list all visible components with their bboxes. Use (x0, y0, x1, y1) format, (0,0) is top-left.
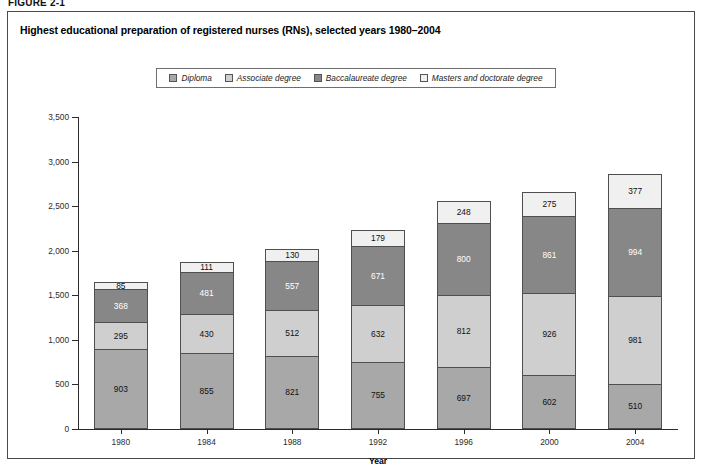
x-axis-tick-label: 1996 (421, 437, 507, 447)
x-axis-tick (121, 430, 122, 434)
bar-segment-value: 994 (628, 248, 642, 256)
bar-segment[interactable]: 275 (522, 192, 576, 217)
bar-segment[interactable]: 481 (180, 272, 234, 315)
bar-segment[interactable]: 861 (522, 216, 576, 293)
x-axis-tick-label: 2000 (507, 437, 593, 447)
bar-segment-value: 926 (542, 330, 556, 338)
bar-segment[interactable]: 557 (265, 261, 319, 311)
y-axis-tick-label: 3,500 (48, 112, 69, 122)
bar-segment[interactable]: 248 (437, 201, 491, 223)
legend-item-label: Masters and doctorate degree (432, 74, 543, 82)
x-axis-tick (378, 430, 379, 434)
y-axis-tick: 3,000 (72, 162, 78, 163)
bar-segment-value: 602 (542, 398, 556, 406)
bar-segment[interactable]: 602 (522, 375, 576, 429)
bar-segment[interactable]: 800 (437, 223, 491, 294)
x-axis-tick (635, 430, 636, 434)
legend-swatch-baccalaureate (314, 74, 322, 82)
x-axis-tick-label: 2004 (592, 437, 678, 447)
bar-group[interactable]: 275861926602 (522, 192, 576, 429)
bar-segment[interactable]: 855 (180, 353, 234, 429)
bar-segment-value: 481 (200, 289, 214, 297)
bar-segment-value: 368 (114, 302, 128, 310)
y-axis-tick-label: 3,000 (48, 157, 69, 167)
bar-segment[interactable]: 671 (351, 246, 405, 306)
bar-segment-value: 430 (200, 330, 214, 338)
bar-segment-value: 755 (371, 391, 385, 399)
x-axis-tick (207, 430, 208, 434)
legend-item-label: Diploma (181, 74, 211, 82)
bar-segment-value: 981 (628, 336, 642, 344)
bar-segment[interactable]: 377 (608, 174, 662, 208)
bar-segment[interactable]: 368 (94, 289, 148, 322)
y-axis-tick: 2,000 (72, 251, 78, 252)
bar-segment-value: 800 (457, 255, 471, 263)
bar-segment[interactable]: 926 (522, 293, 576, 376)
bar-segment[interactable]: 632 (351, 305, 405, 361)
bar-segment-value: 557 (285, 282, 299, 290)
y-axis-tick-label: 0 (64, 424, 69, 434)
bar-segment[interactable]: 821 (265, 356, 319, 429)
bar-segment-value: 275 (542, 200, 556, 208)
y-axis-tick: 2,500 (72, 206, 78, 207)
plot-area: Thousands Year 05001,0001,5002,0002,5003… (78, 117, 678, 430)
legend-item-label: Baccalaureate degree (326, 74, 407, 82)
chart-title: Highest educational preparation of regis… (20, 24, 441, 36)
figure-frame: Highest educational preparation of regis… (7, 11, 695, 459)
x-axis-tick-label: 1992 (335, 437, 421, 447)
x-axis-tick (464, 430, 465, 434)
bar-segment-value: 861 (542, 251, 556, 259)
bar-segment[interactable]: 430 (180, 314, 234, 352)
bar-segment[interactable]: 812 (437, 295, 491, 367)
legend-item[interactable]: Associate degree (225, 74, 301, 82)
legend-item[interactable]: Diploma (169, 74, 211, 82)
x-axis-tick-label: 1984 (164, 437, 250, 447)
bar-group[interactable]: 85368295903 (94, 282, 148, 429)
bar-segment[interactable]: 903 (94, 349, 148, 429)
bar-segment-value: 697 (457, 394, 471, 402)
legend-item[interactable]: Baccalaureate degree (314, 74, 407, 82)
bar-segment-value: 248 (457, 208, 471, 216)
bar-segment[interactable]: 85 (94, 282, 148, 290)
bar-segment[interactable]: 512 (265, 310, 319, 356)
legend-swatch-diploma (169, 74, 177, 82)
bar-segment[interactable]: 179 (351, 230, 405, 246)
y-axis-line (78, 117, 79, 430)
bar-group[interactable]: 111481430855 (180, 262, 234, 429)
bar-group[interactable]: 377994981510 (608, 174, 662, 429)
bar-group[interactable]: 248800812697 (437, 201, 491, 429)
bar-segment-value: 821 (285, 388, 299, 396)
bar-segment-value: 179 (371, 234, 385, 242)
bar-segment[interactable]: 697 (437, 367, 491, 429)
y-axis-tick: 1,000 (72, 340, 78, 341)
x-axis-tick-label: 1980 (78, 437, 164, 447)
x-axis-tick-label: 1988 (249, 437, 335, 447)
x-axis-title: Year (78, 456, 678, 466)
bar-segment[interactable]: 510 (608, 384, 662, 429)
y-axis-tick-label: 500 (55, 379, 69, 389)
y-axis-tick: 3,500 (72, 117, 78, 118)
legend-swatch-associate (225, 74, 233, 82)
bar-segment-value: 855 (200, 387, 214, 395)
bar-segment-value: 377 (628, 187, 642, 195)
legend-item[interactable]: Masters and doctorate degree (420, 74, 543, 82)
bar-segment[interactable]: 981 (608, 296, 662, 383)
y-axis-tick: 0 (72, 429, 78, 430)
bar-segment-value: 671 (371, 272, 385, 280)
bar-segment-value: 295 (114, 332, 128, 340)
y-axis-tick-label: 1,000 (48, 335, 69, 345)
bar-segment-value: 812 (457, 327, 471, 335)
bar-segment[interactable]: 111 (180, 262, 234, 272)
y-axis-tick-label: 1,500 (48, 290, 69, 300)
chart-legend: DiplomaAssociate degreeBaccalaureate deg… (156, 68, 556, 88)
bar-segment[interactable]: 755 (351, 362, 405, 429)
legend-swatch-masters (420, 74, 428, 82)
bar-segment-value: 512 (285, 329, 299, 337)
bar-group[interactable]: 179671632755 (351, 230, 405, 429)
y-axis-tick: 1,500 (72, 295, 78, 296)
bar-segment[interactable]: 295 (94, 322, 148, 348)
bar-segment[interactable]: 994 (608, 208, 662, 297)
bar-segment-value: 111 (200, 263, 213, 271)
bar-group[interactable]: 130557512821 (265, 249, 319, 429)
bar-segment[interactable]: 130 (265, 249, 319, 261)
